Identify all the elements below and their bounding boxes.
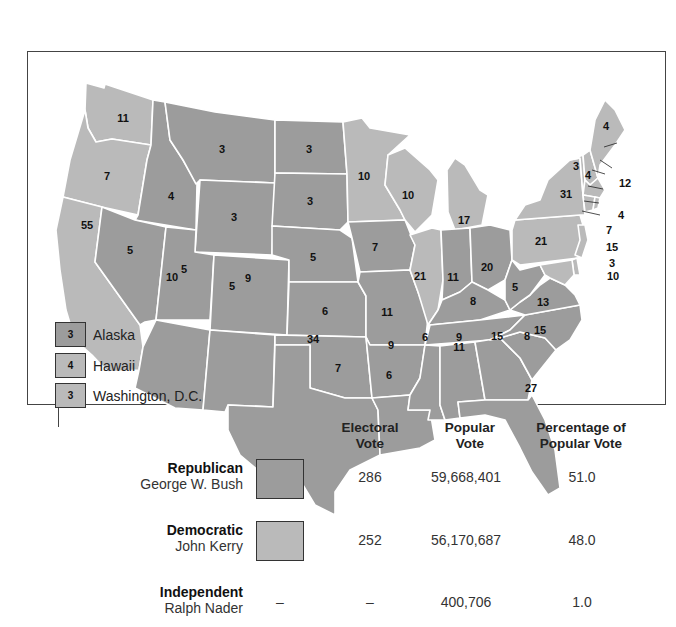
header-percentage: Percentage of Popular Vote [522, 420, 640, 452]
label-la-pos: 9 [388, 339, 394, 351]
candidate-name: George W. Bush [140, 476, 243, 492]
header-electoral-vote: Electoral Vote [335, 420, 405, 452]
legend-dc: 3 Washington, D.C. [55, 383, 202, 408]
label-in: 11 [447, 271, 459, 283]
header-electoral-line2: Vote [335, 436, 405, 452]
label-ca: 55 [81, 219, 93, 231]
legend-label-dc: Washington, D.C. [93, 388, 202, 404]
label-wa: 11 [117, 112, 129, 124]
label-mi: 17 [458, 214, 470, 226]
label-nv: 5 [127, 244, 133, 256]
candidate-republican: Republican George W. Bush [140, 460, 243, 492]
electoral-democratic: 252 [335, 532, 405, 548]
legend-swatch-alaska: 3 [55, 322, 86, 347]
percent-republican: 51.0 [547, 469, 617, 485]
popular-republican: 59,668,401 [418, 469, 514, 485]
label-ut: 5 [181, 263, 187, 275]
label-ri: 4 [618, 209, 625, 221]
label-tx-pos: 34 [307, 333, 320, 345]
legend-hawaii: 4 Hawaii [55, 353, 135, 378]
party-name: Republican [140, 460, 243, 476]
state-nm [203, 330, 275, 412]
header-popular-line1: Popular [435, 420, 505, 436]
label-id: 4 [168, 190, 175, 202]
label-sd: 3 [307, 195, 313, 207]
legend-swatch-dc: 3 [55, 383, 86, 408]
percent-independent: 1.0 [547, 594, 617, 610]
label-sc-pos: 8 [524, 330, 530, 342]
label-oh: 20 [481, 261, 493, 273]
candidate-democratic: Democratic John Kerry [167, 522, 243, 554]
label-wv: 5 [512, 281, 518, 293]
state-ri [593, 197, 600, 210]
label-de: 3 [609, 257, 615, 269]
label-vt: 3 [573, 160, 579, 172]
header-electoral-line1: Electoral [335, 420, 405, 436]
electoral-republican: 286 [335, 469, 405, 485]
label-nm-pos: 5 [229, 280, 235, 292]
label-ks: 6 [322, 305, 328, 317]
popular-democratic: 56,170,687 [418, 532, 514, 548]
popular-independent: 400,706 [418, 594, 514, 610]
state-ia [348, 220, 415, 272]
swatch-democratic [256, 521, 304, 561]
label-ny: 31 [560, 188, 572, 200]
party-name: Independent [160, 584, 243, 600]
label-nj: 15 [606, 241, 618, 253]
header-popular-vote: Popular Vote [435, 420, 505, 452]
label-co: 9 [245, 272, 251, 284]
label-ok: 7 [335, 362, 341, 374]
candidate-name: Ralph Nader [160, 600, 243, 616]
state-me [590, 100, 625, 178]
label-ms-pos: 6 [422, 331, 428, 343]
label-ar: 6 [386, 369, 392, 381]
state-co [210, 255, 289, 335]
label-mn: 10 [358, 170, 370, 182]
label-or: 7 [104, 170, 110, 182]
label-nh: 4 [585, 169, 592, 181]
legend-alaska: 3 Alaska [55, 322, 135, 347]
label-pa: 21 [535, 235, 547, 247]
label-fl-pos: 27 [525, 382, 537, 394]
label-ga-pos: 15 [491, 330, 503, 342]
candidate-independent: Independent Ralph Nader [160, 584, 243, 616]
header-pct-line2: Popular Vote [522, 436, 640, 452]
swatch-independent-dash: – [270, 594, 290, 610]
label-az-pos: 10 [166, 271, 178, 283]
legend-label-hawaii: Hawaii [93, 358, 135, 374]
label-wi: 10 [402, 189, 414, 201]
header-popular-line2: Vote [435, 436, 505, 452]
label-md: 10 [607, 270, 619, 282]
label-il: 21 [414, 270, 426, 282]
label-ky: 8 [470, 295, 476, 307]
header-pct-line1: Percentage of [522, 420, 640, 436]
label-mt: 3 [219, 143, 225, 155]
label-nc-pos: 15 [534, 324, 546, 336]
label-va: 13 [537, 296, 549, 308]
label-ma: 12 [619, 177, 631, 189]
label-ia: 7 [372, 241, 378, 253]
swatch-republican [256, 459, 304, 499]
label-ne: 5 [310, 251, 316, 263]
percent-democratic: 48.0 [547, 532, 617, 548]
label-nd: 3 [306, 143, 312, 155]
label-ct: 7 [606, 224, 612, 236]
legend-swatch-hawaii: 4 [55, 353, 86, 378]
legend-label-alaska: Alaska [93, 327, 135, 343]
electoral-independent: – [335, 594, 405, 610]
candidate-name: John Kerry [167, 538, 243, 554]
label-me: 4 [603, 120, 610, 132]
label-wy: 3 [231, 211, 237, 223]
state-pa [512, 215, 585, 265]
party-name: Democratic [167, 522, 243, 538]
label-mo: 11 [381, 306, 393, 318]
label-al-pos: 9 [456, 331, 462, 343]
